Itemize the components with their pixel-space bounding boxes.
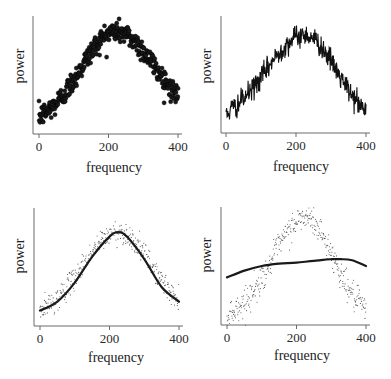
- x-tick-label: 200: [100, 331, 120, 346]
- data-point: [230, 311, 231, 312]
- data-point: [340, 275, 341, 276]
- data-point: [314, 229, 315, 230]
- data-point: [336, 264, 337, 265]
- data-point: [302, 215, 303, 216]
- data-point: [263, 271, 264, 272]
- data-point: [60, 290, 61, 291]
- data-point: [152, 71, 156, 75]
- x-tick-label: 0: [223, 138, 230, 153]
- data-point: [135, 237, 136, 238]
- data-point: [93, 247, 94, 248]
- data-point: [276, 238, 277, 239]
- data-point: [159, 277, 160, 278]
- data-point: [303, 223, 304, 224]
- data-point: [291, 231, 292, 232]
- data-point: [248, 296, 249, 297]
- data-point: [337, 263, 338, 264]
- data-point: [309, 218, 310, 219]
- data-point: [162, 101, 166, 105]
- data-point: [163, 72, 167, 76]
- data-point: [328, 234, 329, 235]
- data-point: [233, 314, 234, 315]
- data-point: [40, 306, 41, 307]
- data-point: [347, 302, 348, 303]
- data-point: [150, 265, 151, 266]
- data-point: [79, 268, 80, 269]
- data-point: [75, 275, 76, 276]
- data-point: [165, 277, 166, 278]
- axis-lines: [221, 207, 370, 325]
- data-point: [364, 318, 365, 319]
- x-tick-label: 400: [356, 138, 376, 153]
- data-point: [98, 241, 99, 242]
- data-point: [144, 250, 145, 251]
- data-point: [299, 220, 300, 221]
- x-tick-label: 400: [168, 139, 188, 154]
- data-point: [356, 296, 357, 297]
- data-point: [236, 301, 237, 302]
- data-point: [148, 256, 149, 257]
- data-point: [251, 289, 252, 290]
- data-point: [315, 230, 316, 231]
- data-point: [275, 242, 276, 243]
- data-point: [159, 271, 160, 272]
- data-point: [47, 312, 48, 313]
- data-point: [157, 266, 158, 267]
- data-point: [172, 286, 173, 287]
- data-point: [239, 310, 240, 311]
- data-point: [349, 290, 350, 291]
- data-point: [257, 281, 258, 282]
- data-point: [232, 312, 233, 313]
- data-point: [108, 232, 109, 233]
- data-point: [340, 270, 341, 271]
- data-point: [111, 229, 112, 230]
- data-point: [89, 61, 93, 65]
- data-point: [285, 226, 286, 227]
- panel-bottom-left: 0 200 400 frequency power: [12, 208, 189, 365]
- data-point: [353, 280, 354, 281]
- data-point: [295, 223, 296, 224]
- data-point: [93, 249, 94, 250]
- data-point: [94, 248, 95, 249]
- data-point: [49, 308, 50, 309]
- data-point: [103, 233, 104, 234]
- data-point: [168, 287, 169, 288]
- data-point: [89, 244, 90, 245]
- data-point: [320, 219, 321, 220]
- data-point: [326, 245, 327, 246]
- data-point: [322, 237, 323, 238]
- data-point: [291, 242, 292, 243]
- data-point: [341, 271, 342, 272]
- data-point: [277, 234, 278, 235]
- data-point: [68, 292, 69, 293]
- data-point: [63, 89, 67, 93]
- data-point: [113, 235, 114, 236]
- data-point: [334, 256, 335, 257]
- data-point: [134, 251, 135, 252]
- data-point: [302, 211, 303, 212]
- data-point: [66, 302, 67, 303]
- data-point: [246, 310, 247, 311]
- data-point: [174, 304, 175, 305]
- data-point: [305, 215, 306, 216]
- data-point: [165, 275, 166, 276]
- data-point: [333, 256, 334, 257]
- data-point: [332, 247, 333, 248]
- data-point: [178, 309, 179, 310]
- data-point: [265, 260, 266, 261]
- data-point: [256, 283, 257, 284]
- data-point: [238, 302, 239, 303]
- data-point: [146, 254, 147, 255]
- data-point: [123, 237, 124, 238]
- data-point: [89, 254, 90, 255]
- data-point: [241, 305, 242, 306]
- data-point: [289, 226, 290, 227]
- data-point: [319, 221, 320, 222]
- data-point: [337, 269, 338, 270]
- data-point: [250, 311, 251, 312]
- data-point: [319, 233, 320, 234]
- data-point: [136, 244, 137, 245]
- data-point: [82, 274, 83, 275]
- data-point: [64, 299, 65, 300]
- data-point: [288, 226, 289, 227]
